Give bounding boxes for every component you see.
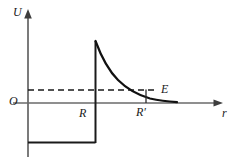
- canvas-background: [0, 0, 244, 157]
- origin-label: O: [9, 95, 18, 107]
- diagram-canvas: [0, 0, 244, 157]
- radius-R-label: R: [79, 107, 86, 119]
- x-axis-label: r: [222, 107, 227, 119]
- potential-energy-diagram: U O R R′ E r: [0, 0, 244, 157]
- radius-prime-mark: ′: [143, 105, 146, 119]
- radius-R-prime-label: R′: [136, 106, 146, 118]
- energy-level-label: E: [161, 83, 168, 95]
- y-axis-label: U: [13, 6, 22, 18]
